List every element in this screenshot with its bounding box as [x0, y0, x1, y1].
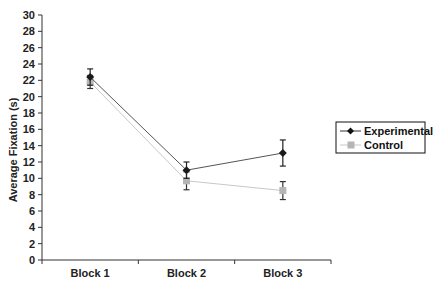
y-tick-label: 24 [23, 58, 36, 70]
legend-label-experimental: Experimental [364, 125, 433, 137]
y-tick-label: 4 [29, 221, 36, 233]
y-tick-label: 22 [23, 74, 35, 86]
x-axis: Block 1Block 2Block 3 [42, 260, 331, 279]
y-tick-label: 12 [23, 156, 35, 168]
y-tick-label: 30 [23, 9, 35, 21]
legend: Experimental Control [336, 122, 433, 153]
square-marker-icon [348, 142, 355, 149]
series-control [87, 75, 287, 199]
x-category-label: Block 3 [263, 267, 302, 279]
square-marker-icon [279, 187, 286, 194]
line-chart: 024681012141618202224262830 Block 1Block… [0, 0, 435, 289]
y-axis: 024681012141618202224262830 [23, 9, 42, 266]
y-tick-label: 14 [23, 140, 36, 152]
y-tick-label: 2 [29, 238, 35, 250]
y-tick-label: 8 [29, 189, 35, 201]
x-category-label: Block 2 [167, 267, 206, 279]
y-tick-label: 6 [29, 205, 35, 217]
y-tick-label: 10 [23, 172, 35, 184]
y-tick-label: 18 [23, 107, 35, 119]
y-tick-label: 20 [23, 91, 35, 103]
y-axis-title: Average Fixation (s) [7, 97, 19, 202]
series-line [90, 77, 283, 170]
y-tick-label: 28 [23, 25, 35, 37]
legend-label-control: Control [364, 139, 403, 151]
series-layer [86, 69, 287, 200]
y-tick-label: 0 [29, 254, 35, 266]
y-tick-label: 26 [23, 42, 35, 54]
series-experimental [86, 69, 287, 178]
x-category-label: Block 1 [71, 267, 110, 279]
diamond-marker-icon [279, 149, 287, 157]
y-tick-label: 16 [23, 123, 35, 135]
